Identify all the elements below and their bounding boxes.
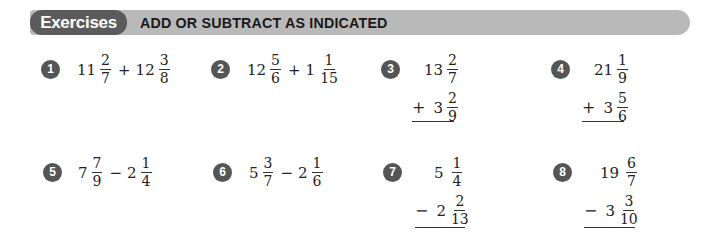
whole-number: 11 xyxy=(77,61,96,79)
fraction: 16 xyxy=(312,156,323,189)
exercise-number-badge: 8 xyxy=(553,163,572,182)
fraction: 56 xyxy=(617,91,628,124)
numerator: 1 xyxy=(312,156,323,173)
numerator: 1 xyxy=(141,156,152,173)
fraction: 115 xyxy=(319,53,339,86)
numerator: 3 xyxy=(263,156,274,173)
operator: + xyxy=(582,98,595,117)
fraction: 27 xyxy=(100,53,111,86)
whole-number: 1 xyxy=(306,61,316,79)
numerator: 2 xyxy=(100,53,111,70)
operator: + xyxy=(118,61,131,79)
exercise-5-expression: 7 79 − 2 14 xyxy=(78,156,154,189)
operator: + xyxy=(412,98,425,117)
numerator: 1 xyxy=(324,53,335,70)
numerator: 1 xyxy=(452,156,463,173)
denominator: 8 xyxy=(159,70,170,86)
numerator: 3 xyxy=(623,194,634,211)
whole-number: 3 xyxy=(433,99,443,117)
exercise-6-expression: 5 37 − 2 16 xyxy=(249,156,325,189)
fraction: 310 xyxy=(619,194,639,227)
exercise-3-bottom-operand: + 3 29 xyxy=(412,91,460,124)
exercise-1-expression: 11 27 + 12 38 xyxy=(77,53,172,86)
numerator: 1 xyxy=(617,53,628,70)
exercise-number-badge: 3 xyxy=(381,60,400,79)
whole-number: 2 xyxy=(127,164,137,182)
numerator: 3 xyxy=(159,53,170,70)
exercise-number-badge: 4 xyxy=(551,60,570,79)
operator: − xyxy=(280,164,293,182)
whole-number: 2 xyxy=(436,202,446,220)
fraction: 79 xyxy=(92,156,103,189)
fraction: 14 xyxy=(141,156,152,189)
section-title: ADD OR SUBTRACT AS INDICATED xyxy=(140,10,388,35)
fraction: 38 xyxy=(159,53,170,86)
exercise-number-badge: 7 xyxy=(383,163,402,182)
whole-number: 5 xyxy=(249,164,259,182)
denominator: 7 xyxy=(263,173,274,189)
answer-line xyxy=(415,227,465,228)
denominator: 15 xyxy=(319,70,339,86)
fraction: 27 xyxy=(447,53,458,86)
fraction: 14 xyxy=(452,156,463,189)
denominator: 4 xyxy=(452,173,463,189)
denominator: 7 xyxy=(100,70,111,86)
exercise-number-badge: 1 xyxy=(41,60,60,79)
exercise-3-top-operand: 13 27 xyxy=(424,53,460,86)
numerator: 2 xyxy=(454,194,465,211)
whole-number: 3 xyxy=(605,202,615,220)
numerator: 7 xyxy=(92,156,103,173)
exercise-8-bottom-operand: − 3 310 xyxy=(584,194,641,227)
whole-number: 2 xyxy=(298,164,308,182)
exercise-number-badge: 2 xyxy=(211,60,230,79)
exercise-7-top-operand: 5 14 xyxy=(434,156,464,189)
fraction: 213 xyxy=(450,194,470,227)
denominator: 7 xyxy=(447,70,458,86)
numerator: 6 xyxy=(626,156,637,173)
denominator: 4 xyxy=(141,173,152,189)
exercise-8-top-operand: 19 67 xyxy=(600,156,639,189)
whole-number: 19 xyxy=(600,164,619,182)
whole-number: 12 xyxy=(136,61,155,79)
whole-number: 21 xyxy=(594,61,613,79)
exercise-4-bottom-operand: + 3 56 xyxy=(582,91,630,124)
operator: + xyxy=(288,61,301,79)
fraction: 19 xyxy=(617,53,628,86)
fraction: 29 xyxy=(447,91,458,124)
numerator: 5 xyxy=(270,53,281,70)
answer-line xyxy=(582,121,624,122)
exercise-number-badge: 5 xyxy=(43,163,62,182)
whole-number: 3 xyxy=(603,99,613,117)
denominator: 9 xyxy=(617,70,628,86)
whole-number: 7 xyxy=(78,164,88,182)
numerator: 5 xyxy=(617,91,628,108)
whole-number: 12 xyxy=(247,61,266,79)
denominator: 9 xyxy=(92,173,103,189)
whole-number: 13 xyxy=(424,61,443,79)
answer-line xyxy=(412,121,454,122)
fraction: 37 xyxy=(263,156,274,189)
exercise-4-top-operand: 21 19 xyxy=(594,53,630,86)
denominator: 6 xyxy=(312,173,323,189)
exercise-2-expression: 12 56 + 1 115 xyxy=(247,53,341,86)
denominator: 7 xyxy=(626,173,637,189)
fraction: 67 xyxy=(626,156,637,189)
exercise-7-bottom-operand: − 2 213 xyxy=(415,194,472,227)
operator: − xyxy=(415,201,428,220)
answer-line xyxy=(584,227,635,228)
exercises-label: Exercises xyxy=(30,10,127,35)
denominator: 13 xyxy=(450,211,470,227)
fraction: 56 xyxy=(270,53,281,86)
operator: − xyxy=(109,164,122,182)
exercise-number-badge: 6 xyxy=(213,163,232,182)
whole-number: 5 xyxy=(434,164,444,182)
denominator: 6 xyxy=(270,70,281,86)
numerator: 2 xyxy=(447,53,458,70)
operator: − xyxy=(584,201,597,220)
numerator: 2 xyxy=(447,91,458,108)
denominator: 10 xyxy=(619,211,639,227)
